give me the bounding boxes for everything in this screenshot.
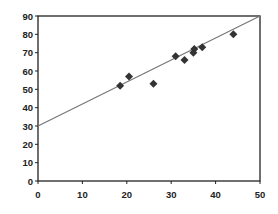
y-tick-label: 60 <box>22 66 33 77</box>
y-tick-label: 50 <box>22 84 33 95</box>
x-tick-label: 50 <box>255 189 266 200</box>
y-tick-label: 90 <box>22 11 33 22</box>
plot-frame <box>38 16 260 181</box>
y-tick-label: 70 <box>22 47 33 58</box>
y-tick-label: 80 <box>22 29 33 40</box>
x-tick-label: 10 <box>77 189 88 200</box>
chart-svg: 010203040506070809001020304050 <box>0 0 278 214</box>
x-tick-label: 30 <box>166 189 177 200</box>
scatter-chart: 010203040506070809001020304050 <box>0 0 278 214</box>
x-tick-label: 20 <box>122 189 133 200</box>
x-tick-label: 0 <box>35 189 40 200</box>
data-point-diamond <box>181 56 189 64</box>
x-tick-label: 40 <box>210 189 221 200</box>
y-tick-label: 10 <box>22 157 33 168</box>
data-point-diamond <box>229 30 237 38</box>
y-tick-label: 20 <box>22 139 33 150</box>
data-point-diamond <box>198 43 206 51</box>
trendline <box>38 16 260 126</box>
y-tick-label: 0 <box>28 176 33 187</box>
data-point-diamond <box>116 82 124 90</box>
y-tick-label: 40 <box>22 102 33 113</box>
y-tick-label: 30 <box>22 121 33 132</box>
data-point-diamond <box>149 80 157 88</box>
plot-area: 010203040506070809001020304050 <box>22 11 265 201</box>
